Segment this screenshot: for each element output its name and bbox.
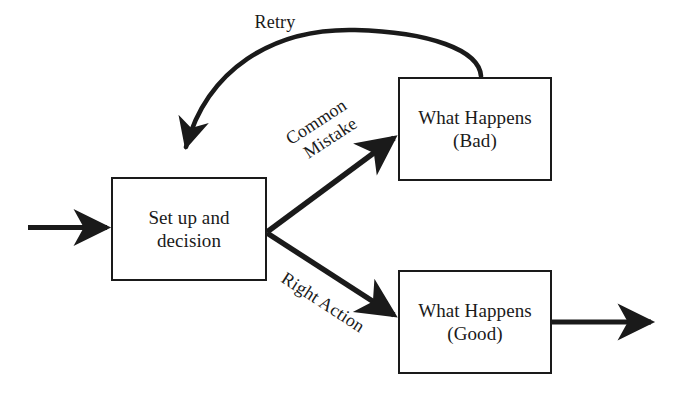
- flow-diagram: Set up and decision What Happens (Bad) W…: [0, 0, 683, 400]
- what-happens-bad-label-line1: What Happens: [418, 106, 532, 129]
- what-happens-good-label-line1: What Happens: [418, 299, 532, 322]
- setup-decision-node[interactable]: Set up and decision: [111, 177, 267, 281]
- what-happens-good-label-line2: (Good): [447, 322, 502, 345]
- retry-edge-label: Retry: [240, 12, 310, 33]
- what-happens-good-node[interactable]: What Happens (Good): [398, 270, 552, 374]
- what-happens-bad-label-line2: (Bad): [453, 129, 497, 152]
- what-happens-bad-node[interactable]: What Happens (Bad): [398, 77, 552, 181]
- edge-layer: [0, 0, 683, 400]
- setup-decision-label-line1: Set up and: [148, 206, 229, 229]
- setup-decision-label-line2: decision: [157, 229, 221, 252]
